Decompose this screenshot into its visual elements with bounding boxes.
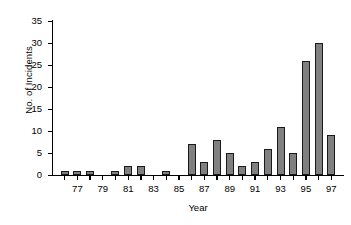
x-axis-tick-mark bbox=[229, 176, 230, 180]
y-axis-tick-mark bbox=[48, 131, 52, 132]
x-axis-line bbox=[52, 175, 344, 176]
y-axis-tick-label: 20 bbox=[20, 82, 42, 92]
y-axis-tick-mark bbox=[48, 21, 52, 22]
x-axis-tick-label: 91 bbox=[243, 184, 267, 194]
bar bbox=[124, 166, 132, 175]
x-axis-tick-mark bbox=[140, 176, 141, 180]
bar bbox=[251, 162, 259, 175]
bar bbox=[73, 171, 81, 175]
bar bbox=[61, 171, 69, 175]
bar bbox=[200, 162, 208, 175]
x-axis-tick-label: 83 bbox=[142, 184, 166, 194]
y-axis-tick-label: 5 bbox=[20, 148, 42, 158]
x-axis-tick-mark bbox=[293, 176, 294, 180]
bar bbox=[86, 171, 94, 175]
x-axis-tick-mark bbox=[178, 176, 179, 180]
x-axis-tick-mark bbox=[89, 176, 90, 180]
bar bbox=[238, 166, 246, 175]
y-axis-tick-label: 25 bbox=[20, 60, 42, 70]
x-axis-tick-mark bbox=[331, 176, 332, 180]
x-axis-tick-mark bbox=[305, 176, 306, 180]
x-axis-tick-label: 77 bbox=[65, 184, 89, 194]
y-axis-tick-mark bbox=[48, 153, 52, 154]
y-axis-line bbox=[52, 20, 53, 176]
bar bbox=[111, 171, 119, 175]
x-axis-tick-mark bbox=[280, 176, 281, 180]
x-axis-tick-mark bbox=[102, 176, 103, 180]
bar bbox=[302, 61, 310, 175]
x-axis-tick-label: 79 bbox=[91, 184, 115, 194]
x-axis-tick-label: 81 bbox=[116, 184, 140, 194]
x-axis-tick-mark bbox=[64, 176, 65, 180]
bar bbox=[327, 135, 335, 175]
x-axis-tick-mark bbox=[166, 176, 167, 180]
x-axis-tick-mark bbox=[115, 176, 116, 180]
x-axis-tick-label: 93 bbox=[269, 184, 293, 194]
bar bbox=[188, 144, 196, 175]
y-axis-tick-label: 0 bbox=[20, 170, 42, 180]
bar bbox=[264, 149, 272, 175]
x-axis-tick-mark bbox=[254, 176, 255, 180]
x-axis-tick-mark bbox=[153, 176, 154, 180]
x-axis-tick-label: 87 bbox=[192, 184, 216, 194]
x-axis-tick-mark bbox=[128, 176, 129, 180]
x-axis-tick-mark bbox=[267, 176, 268, 180]
y-axis-tick-label: 10 bbox=[20, 126, 42, 136]
x-axis-tick-label: 97 bbox=[319, 184, 343, 194]
x-axis-tick-mark bbox=[242, 176, 243, 180]
y-axis-tick-mark bbox=[48, 175, 52, 176]
x-axis-tick-mark bbox=[216, 176, 217, 180]
y-axis-tick-label: 30 bbox=[20, 38, 42, 48]
y-axis-tick-mark bbox=[48, 87, 52, 88]
bar bbox=[277, 127, 285, 175]
y-axis-tick-mark bbox=[48, 109, 52, 110]
x-axis-title: Year bbox=[138, 202, 258, 213]
x-axis-tick-mark bbox=[318, 176, 319, 180]
x-axis-tick-label: 85 bbox=[167, 184, 191, 194]
y-axis-tick-mark bbox=[48, 43, 52, 44]
bar bbox=[137, 166, 145, 175]
x-axis-tick-label: 89 bbox=[218, 184, 242, 194]
x-axis-tick-mark bbox=[204, 176, 205, 180]
bar bbox=[315, 43, 323, 175]
x-axis-tick-label: 95 bbox=[294, 184, 318, 194]
x-axis-tick-mark bbox=[77, 176, 78, 180]
bar bbox=[162, 171, 170, 175]
bar bbox=[289, 153, 297, 175]
y-axis-tick-label: 35 bbox=[20, 16, 42, 26]
y-axis-tick-label: 15 bbox=[20, 104, 42, 114]
y-axis-tick-mark bbox=[48, 65, 52, 66]
x-axis-tick-mark bbox=[191, 176, 192, 180]
bar bbox=[226, 153, 234, 175]
bar bbox=[213, 140, 221, 175]
bar-chart-figure: No. of Incidents 05101520253035 77798183… bbox=[0, 0, 351, 225]
